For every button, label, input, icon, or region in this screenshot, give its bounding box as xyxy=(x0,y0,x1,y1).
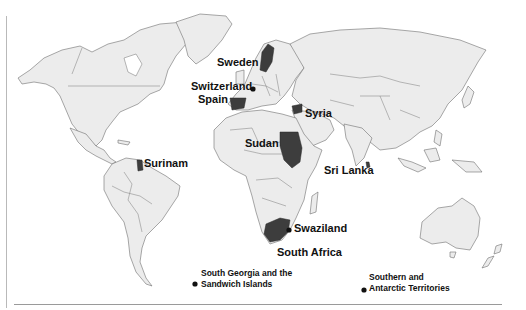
label-swaziland: Swaziland xyxy=(294,223,347,234)
label-switzerland: Switzerland xyxy=(191,81,252,92)
sumatra-java xyxy=(398,158,426,172)
japan xyxy=(462,86,474,108)
cuba xyxy=(118,140,130,145)
north-america xyxy=(18,22,198,146)
syria-shape xyxy=(292,104,302,114)
madagascar xyxy=(310,192,318,214)
south-america xyxy=(104,158,180,286)
australia xyxy=(420,198,480,250)
south-georgia-dot xyxy=(192,281,197,286)
swaziland-dot xyxy=(286,227,291,232)
philippines xyxy=(434,130,442,146)
new-guinea xyxy=(452,160,482,172)
label-sudan: Sudan xyxy=(245,138,279,149)
label-southern-antarctic-line1: Southern and xyxy=(369,272,424,283)
new-zealand xyxy=(482,244,502,268)
label-south-georgia-line2: Sandwich Islands xyxy=(201,279,272,290)
southern-antarctic-dot xyxy=(361,287,366,292)
spain-shape xyxy=(230,98,246,110)
label-syria: Syria xyxy=(305,108,332,119)
tasmania xyxy=(450,252,456,258)
surinam-shape xyxy=(137,160,143,171)
label-southern-antarctic-line2: Antarctic Territories xyxy=(369,283,450,294)
world-map xyxy=(0,0,526,310)
label-surinam: Surinam xyxy=(144,158,188,169)
label-sri-lanka: Sri Lanka xyxy=(324,165,374,176)
label-south-georgia-line1: South Georgia and the xyxy=(201,268,292,279)
label-sweden: Sweden xyxy=(217,57,259,68)
label-south-africa: South Africa xyxy=(277,247,342,258)
label-spain: Spain xyxy=(198,94,228,105)
borneo xyxy=(424,148,440,162)
